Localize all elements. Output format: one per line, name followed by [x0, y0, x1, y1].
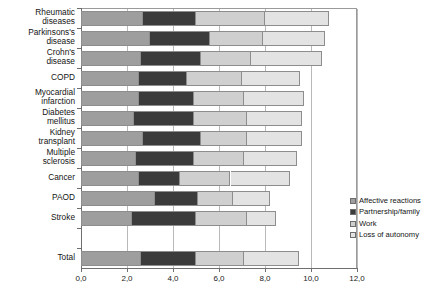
y-axis-category-label: Kidneytransplant: [0, 128, 75, 147]
bar-segment: [196, 251, 244, 266]
x-axis-tick-label: 0,0: [75, 274, 86, 283]
y-axis-tick: [77, 28, 81, 29]
bar-segment: [143, 131, 201, 146]
bar-segment: [81, 171, 139, 186]
x-axis-tick-label: 2,0: [121, 274, 132, 283]
legend-label: Affective reactions: [359, 197, 421, 205]
bar-segment: [136, 151, 194, 166]
y-axis-tick: [77, 8, 81, 9]
bar-segment: [244, 151, 297, 166]
chart-legend: Affective reactionsPartnership/familyWor…: [350, 195, 444, 241]
stacked-bar-chart: RheumaticdiseasesParkinsons'sdiseaseCroh…: [0, 0, 444, 301]
bar-segment: [81, 11, 143, 26]
bar-segment: [194, 151, 245, 166]
bar-segment: [81, 31, 150, 46]
bar-segment: [201, 131, 247, 146]
bar-segment: [231, 171, 291, 186]
y-axis-tick: [77, 68, 81, 69]
bar-segment: [194, 111, 247, 126]
legend-swatch: [350, 221, 356, 227]
legend-swatch: [350, 209, 356, 215]
y-axis-tick: [77, 48, 81, 49]
y-axis-category-label: Cancer: [0, 173, 75, 182]
bar-segment: [196, 211, 247, 226]
x-axis-tick: [81, 268, 82, 272]
x-axis-tick: [219, 268, 220, 272]
y-axis-category-label: Multiplesclerosis: [0, 148, 75, 167]
bar-segment: [81, 251, 141, 266]
bar-segment: [180, 171, 231, 186]
legend-item[interactable]: Loss of autonomy: [350, 230, 444, 242]
bar-segment: [263, 31, 325, 46]
bar-segment: [81, 91, 139, 106]
bar-segment: [81, 71, 139, 86]
bar-segment: [242, 71, 300, 86]
legend-label: Loss of autonomy: [359, 231, 419, 239]
bar-segment: [150, 31, 210, 46]
bar-segment: [265, 11, 329, 26]
y-axis-category-label: Myocardialinfarction: [0, 88, 75, 107]
bar-segment: [244, 251, 299, 266]
bar-segment: [81, 111, 134, 126]
y-axis-category-label: Diabetesmellitus: [0, 108, 75, 127]
bar-segment: [244, 91, 304, 106]
bar-segment: [139, 171, 180, 186]
y-axis-tick: [77, 108, 81, 109]
y-axis-category-label: Crohn'sdisease: [0, 48, 75, 67]
legend-swatch: [350, 232, 356, 238]
legend-item[interactable]: Work: [350, 218, 444, 230]
legend-item[interactable]: Affective reactions: [350, 195, 444, 207]
bar-segment: [155, 191, 199, 206]
y-axis-category-label: Total: [0, 253, 75, 262]
bar-segment: [187, 71, 242, 86]
x-axis-tick-label: 4,0: [167, 274, 178, 283]
bar-segment: [247, 131, 302, 146]
y-axis-category-label: COPD: [0, 73, 75, 82]
y-axis-category-label: PAOD: [0, 193, 75, 202]
bar-segment: [132, 211, 196, 226]
legend-label: Work: [359, 220, 377, 228]
bar-segment: [139, 71, 187, 86]
y-axis-category-label: Parkinsons'sdisease: [0, 28, 75, 47]
x-axis-tick: [173, 268, 174, 272]
x-axis-tick-label: 8,0: [259, 274, 270, 283]
x-axis-tick: [127, 268, 128, 272]
bar-segment: [194, 91, 245, 106]
x-axis-tick: [265, 268, 266, 272]
x-axis-tick-label: 10,0: [303, 274, 319, 283]
y-axis-tick: [77, 228, 81, 229]
y-axis-tick: [77, 248, 81, 249]
bar-segment: [251, 51, 322, 66]
y-axis-category-label: Rheumaticdiseases: [0, 8, 75, 27]
bar-segment: [134, 111, 194, 126]
x-axis-tick: [357, 268, 358, 272]
bar-segment: [141, 51, 201, 66]
bar-segment: [81, 51, 141, 66]
x-axis-tick-label: 12,0: [349, 274, 365, 283]
bar-segment: [81, 151, 136, 166]
bar-segment: [210, 31, 263, 46]
legend-item[interactable]: Partnership/family: [350, 207, 444, 219]
y-axis-tick: [77, 128, 81, 129]
legend-swatch: [350, 198, 356, 204]
bar-segment: [143, 11, 196, 26]
y-axis-tick: [77, 188, 81, 189]
bar-segment: [81, 191, 155, 206]
bar-segment: [233, 191, 270, 206]
y-axis-tick: [77, 208, 81, 209]
bar-segment: [81, 131, 143, 146]
bar-segment: [198, 191, 233, 206]
y-axis-tick: [77, 88, 81, 89]
bar-segment: [196, 11, 265, 26]
bar-segment: [139, 91, 194, 106]
y-axis-tick: [77, 148, 81, 149]
bar-segment: [201, 51, 252, 66]
bar-segment: [247, 211, 277, 226]
bar-segment: [141, 251, 196, 266]
y-axis-category-label: Stroke: [0, 213, 75, 222]
gridline: [311, 9, 312, 269]
y-axis-tick: [77, 168, 81, 169]
bar-segment: [81, 211, 132, 226]
x-axis-tick: [311, 268, 312, 272]
x-axis-tick-label: 6,0: [213, 274, 224, 283]
